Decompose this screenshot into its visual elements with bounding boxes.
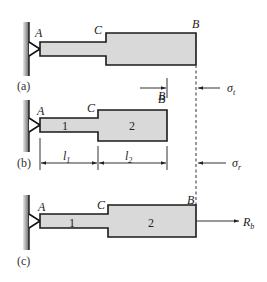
panel-caption: (b) <box>17 156 31 170</box>
point-b-label: B <box>187 193 195 207</box>
stepped-bar <box>40 33 196 65</box>
point-a-label: A <box>37 200 46 214</box>
point-c-label: C <box>94 23 103 37</box>
wall-support <box>23 100 29 152</box>
reaction-label: Rb <box>242 215 254 231</box>
panel-a: A C B (a) B σt <box>17 17 236 103</box>
panel-caption: (c) <box>17 254 30 268</box>
stepped-bar-diagram: A C B (a) B σt A C B 1 2 l1 <box>0 0 267 282</box>
stepped-bar <box>40 205 196 237</box>
stepped-bar <box>40 110 167 141</box>
wall-support <box>23 22 29 76</box>
segment-1-label: 1 <box>62 119 68 133</box>
point-a-label: A <box>36 104 45 118</box>
point-b-label: B <box>158 92 166 106</box>
pin-support-icon <box>29 42 40 56</box>
dimension-l2-label: l2 <box>125 149 132 165</box>
wall-support <box>23 195 29 250</box>
pin-support-icon <box>29 214 40 228</box>
dimension-l1-label: l1 <box>63 149 70 165</box>
point-c-label: C <box>97 198 106 212</box>
point-c-label: C <box>87 101 96 115</box>
point-b-label: B <box>192 17 200 31</box>
stress-t-label: σt <box>227 81 236 97</box>
pin-support-icon <box>29 118 40 132</box>
segment-2-label: 2 <box>129 119 135 133</box>
panel-c: A C B 1 2 (c) Rb <box>17 193 254 268</box>
segment-2-label: 2 <box>148 216 154 230</box>
panel-caption: (a) <box>17 79 30 93</box>
point-a-label: A <box>34 26 43 40</box>
segment-1-label: 1 <box>69 216 75 230</box>
stress-r-label: σr <box>232 156 242 172</box>
panel-b: A C B 1 2 l1 l2 (b) σr <box>17 92 242 172</box>
